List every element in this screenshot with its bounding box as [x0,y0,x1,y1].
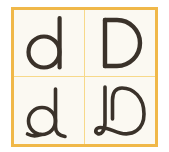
letter-uppercase-d-script-icon [89,79,151,143]
grid-cell-bottom-left[interactable]: d [14,77,85,144]
letter-uppercase-d-icon [91,12,149,74]
grid-cell-top-right[interactable]: D [85,10,156,77]
letter-lowercase-d-icon [20,12,78,74]
grid-cell-top-left[interactable]: d [14,10,85,77]
letter-lowercase-d-script-icon [19,79,79,143]
grid-cell-bottom-right[interactable]: D [85,77,156,144]
letterform-grid: d D d D [11,7,158,147]
